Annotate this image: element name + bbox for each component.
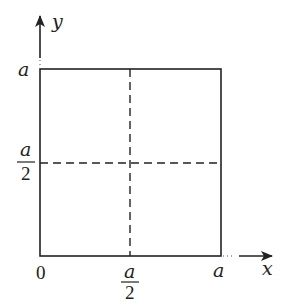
x-axis-label: x (262, 257, 273, 279)
y-axis-label: y (51, 10, 63, 32)
diagram-canvas: y x 0 a a 2 a 2 a (0, 0, 283, 307)
y-tick-a: a (18, 58, 29, 80)
y-tick-half-den: 2 (21, 163, 31, 184)
x-tick-half-num: a (124, 260, 135, 282)
origin-label: 0 (36, 262, 46, 283)
y-tick-half-num: a (20, 138, 31, 160)
square-diagram: y x 0 a a 2 a 2 a (0, 0, 283, 307)
x-tick-a: a (213, 259, 224, 281)
x-tick-half-den: 2 (125, 282, 135, 303)
